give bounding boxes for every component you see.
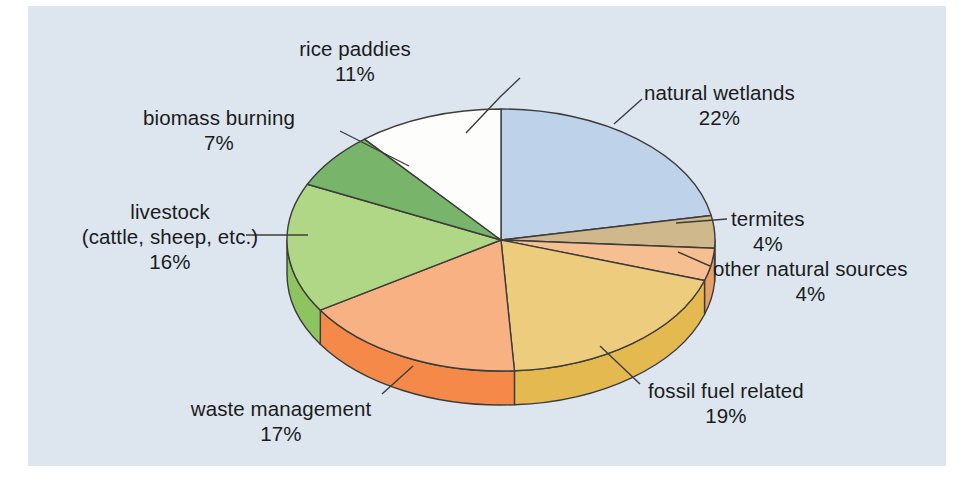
pie-chart-figure: rice paddies 11% biomass burning 7% live… [0, 0, 974, 486]
label-livestock: livestock (cattle, sheep, etc.) 16% [82, 199, 258, 274]
label-termites-value: 4% [731, 231, 805, 256]
label-waste-management: waste management 17% [191, 396, 372, 446]
leader-natural-wetlands [614, 99, 642, 124]
label-rice-paddies: rice paddies 11% [299, 36, 411, 86]
label-natural-wetlands-value: 22% [644, 105, 795, 130]
label-natural-wetlands: natural wetlands 22% [644, 80, 795, 130]
label-natural-wetlands-name: natural wetlands [644, 81, 795, 104]
label-waste-management-name: waste management [191, 397, 372, 420]
label-other-natural-sources: other natural sources 4% [713, 256, 908, 306]
label-termites-name: termites [731, 207, 805, 230]
label-biomass-burning-value: 7% [143, 130, 295, 155]
label-biomass-burning: biomass burning 7% [143, 105, 295, 155]
label-rice-paddies-value: 11% [299, 61, 411, 86]
pie-3d-tops [287, 109, 715, 371]
label-other-natural-sources-value: 4% [713, 281, 908, 306]
label-termites: termites 4% [731, 206, 805, 256]
label-biomass-burning-name: biomass burning [143, 106, 295, 129]
label-waste-management-value: 17% [191, 421, 372, 446]
label-fossil-fuel-related: fossil fuel related 19% [648, 378, 804, 428]
label-livestock-value: 16% [82, 249, 258, 274]
label-livestock-line1: livestock [130, 200, 210, 223]
label-fossil-fuel-related-value: 19% [648, 403, 804, 428]
label-other-natural-sources-name: other natural sources [713, 257, 908, 280]
label-fossil-fuel-related-name: fossil fuel related [648, 379, 804, 402]
label-rice-paddies-name: rice paddies [299, 37, 411, 60]
label-livestock-line2: (cattle, sheep, etc.) [82, 224, 258, 249]
